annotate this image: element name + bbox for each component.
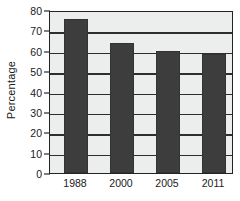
x-axis-tick-labels: 1988200020052011	[49, 178, 233, 196]
y-axis-tick-labels: 01020304050607080	[18, 11, 42, 174]
y-axis-tick-label: 60	[30, 47, 42, 58]
x-axis-tick-label: 2011	[202, 178, 225, 189]
y-axis-tick-label: 20	[30, 128, 42, 139]
bar	[156, 51, 180, 173]
y-axis-tick-label: 40	[30, 87, 42, 98]
y-axis-tick-label: 10	[30, 148, 42, 159]
bar	[202, 54, 226, 173]
plot-inner	[50, 12, 232, 173]
plot-area	[49, 11, 233, 174]
x-axis-tick-label: 2000	[109, 178, 132, 189]
bar	[110, 43, 134, 173]
y-axis-tick-label: 0	[36, 169, 42, 180]
y-axis-tick-label: 80	[30, 6, 42, 17]
bar	[64, 19, 88, 173]
y-axis-tick-label: 70	[30, 26, 42, 37]
y-axis-tick-label: 50	[30, 67, 42, 78]
bar-chart: Percentage 01020304050607080 19882000200…	[0, 0, 240, 201]
y-axis-title-text: Percentage	[5, 61, 17, 119]
x-axis-tick-label: 2005	[155, 178, 178, 189]
x-axis-tick-label: 1988	[63, 178, 86, 189]
y-axis-tick-label: 30	[30, 108, 42, 119]
